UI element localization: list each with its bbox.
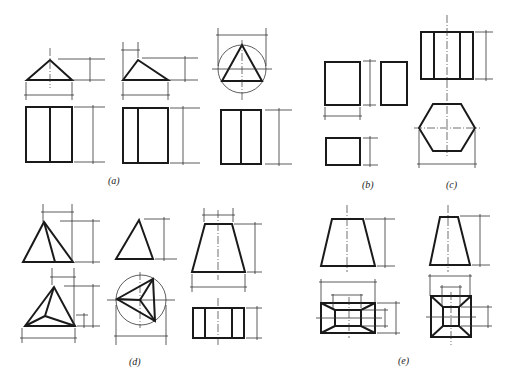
drawing-canvas: (a) (b) (c) <box>0 0 509 385</box>
label-d: (d) <box>129 356 141 368</box>
label-e: (e) <box>398 355 410 367</box>
panel-c: (c) <box>414 15 493 191</box>
prism-a2 <box>121 42 200 165</box>
label-c: (c) <box>446 179 458 191</box>
panel-a: (a) <box>24 28 292 187</box>
panel-d: (d) <box>20 204 262 368</box>
label-a: (a) <box>108 175 120 187</box>
prism-a3 <box>212 28 292 166</box>
panel-e: (e) <box>316 205 492 367</box>
panel-b: (b) <box>323 59 407 191</box>
prism-a1 <box>24 48 105 164</box>
label-b: (b) <box>362 179 374 191</box>
